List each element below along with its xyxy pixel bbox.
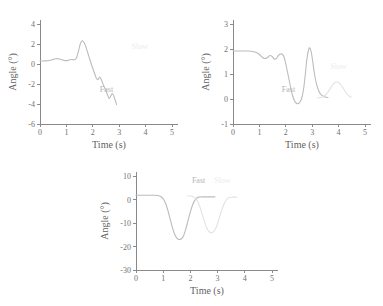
y-tick-label: 3 (224, 20, 228, 29)
y-tick-label: 10 (123, 172, 131, 181)
x-axis-title: Time (s) (92, 139, 126, 151)
y-tick-label: -2 (28, 80, 35, 89)
y-tick-label: 0 (224, 95, 228, 104)
series-annotation-fast: Fast (192, 176, 206, 185)
y-tick-label: 4 (31, 20, 35, 29)
x-ticks-bottom-center: 012345 (134, 270, 274, 283)
plot-area-top-left: 420-2-4-6 012345 FastSlow Time (s) Angle… (7, 20, 178, 151)
chart-svg-top-left: 420-2-4-6 012345 FastSlow Time (s) Angle… (0, 6, 190, 154)
y-tick-label: -6 (28, 120, 35, 129)
x-tick-label: 1 (257, 128, 261, 137)
plot-area-top-right: 3210-1 012345 FastSlow Time (s) Angle (°… (200, 20, 371, 151)
x-tick-label: 2 (188, 274, 192, 283)
y-axis-title: Angle (°) (99, 202, 111, 240)
series-annotation-slow: Slow (330, 62, 347, 71)
y-ticks-bottom-center: 100-10-20-30 (120, 172, 136, 275)
y-tick-label: -1 (221, 120, 228, 129)
series-group-top-right (233, 48, 351, 104)
x-tick-label: 1 (64, 128, 68, 137)
y-ticks-top-left: 420-2-4-6 (28, 20, 40, 129)
annotations-top-right: FastSlow (282, 62, 347, 95)
series-group-bottom-center (136, 195, 237, 239)
annotations-bottom-center: FastSlow (192, 176, 231, 185)
axes-bottom-center (136, 172, 278, 270)
series-line-fast (233, 48, 328, 104)
y-tick-label: 1 (224, 70, 228, 79)
chart-panel-top-left: 420-2-4-6 012345 FastSlow Time (s) Angle… (0, 6, 190, 154)
series-line-fast (40, 41, 117, 105)
series-annotation-fast: Fast (100, 85, 114, 94)
x-ticks-top-left: 012345 (38, 124, 174, 137)
chart-svg-bottom-center: 100-10-20-30 012345 FastSlow Time (s) An… (90, 158, 295, 306)
chart-svg-top-right: 3210-1 012345 FastSlow Time (s) Angle (°… (193, 6, 383, 154)
y-tick-label: 0 (31, 60, 35, 69)
x-tick-label: 2 (284, 128, 288, 137)
y-ticks-top-right: 3210-1 (221, 20, 233, 129)
y-axis-title: Angle (°) (7, 53, 19, 91)
y-tick-label: 2 (31, 40, 35, 49)
x-tick-label: 3 (310, 128, 314, 137)
y-axis-title: Angle (°) (200, 53, 212, 91)
plot-area-bottom-center: 100-10-20-30 012345 FastSlow Time (s) An… (99, 172, 278, 297)
x-tick-label: 3 (117, 128, 121, 137)
x-tick-label: 2 (91, 128, 95, 137)
y-tick-label: 0 (127, 196, 131, 205)
x-tick-label: 0 (231, 128, 235, 137)
series-annotation-slow: Slow (214, 176, 231, 185)
y-tick-label: -10 (120, 219, 131, 228)
y-tick-label: -20 (120, 243, 131, 252)
y-tick-label: -30 (120, 266, 131, 275)
x-axis-title: Time (s) (190, 285, 224, 297)
series-annotation-fast: Fast (282, 85, 296, 94)
x-tick-label: 4 (337, 128, 341, 137)
chart-panel-bottom-center: 100-10-20-30 012345 FastSlow Time (s) An… (90, 158, 295, 306)
x-axis-title: Time (s) (285, 139, 319, 151)
axes-top-left (40, 20, 178, 124)
y-tick-label: 2 (224, 45, 228, 54)
figure-canvas: 420-2-4-6 012345 FastSlow Time (s) Angle… (0, 0, 383, 306)
chart-panel-top-right: 3210-1 012345 FastSlow Time (s) Angle (°… (193, 6, 383, 154)
x-ticks-top-right: 012345 (231, 124, 367, 137)
series-annotation-slow: Slow (132, 42, 149, 51)
x-tick-label: 5 (270, 274, 274, 283)
x-tick-label: 5 (170, 128, 174, 137)
axes-top-right (233, 20, 371, 124)
x-tick-label: 3 (216, 274, 220, 283)
x-tick-label: 4 (243, 274, 247, 283)
annotations-top-left: FastSlow (100, 42, 148, 94)
series-line-slow (188, 196, 237, 233)
x-tick-label: 0 (134, 274, 138, 283)
x-tick-label: 0 (38, 128, 42, 137)
x-tick-label: 5 (363, 128, 367, 137)
y-tick-label: -4 (28, 100, 35, 109)
x-tick-label: 4 (144, 128, 148, 137)
x-tick-label: 1 (161, 274, 165, 283)
series-group-top-left (40, 41, 117, 105)
